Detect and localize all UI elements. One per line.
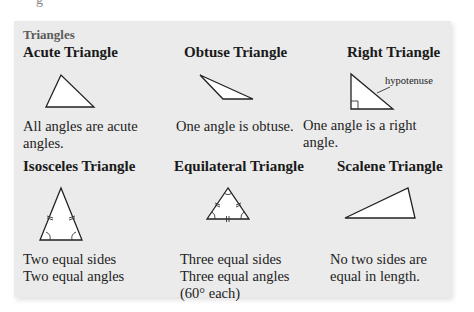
right-triangle-icon: hypotenuse — [350, 74, 450, 114]
isosceles-triangle-icon — [40, 188, 90, 248]
equilateral-triangle-heading: Equilateral Triangle — [174, 158, 324, 175]
scalene-triangle-heading: Scalene Triangle — [337, 158, 467, 175]
scalene-triangle-icon — [345, 188, 425, 228]
acute-triangle-icon — [33, 74, 93, 114]
isosceles-triangle-heading: Isosceles Triangle — [23, 158, 163, 175]
obtuse-triangle-heading: Obtuse Triangle — [184, 44, 324, 61]
panel-title: Triangles — [23, 27, 75, 43]
right-triangle-cell: Right Triangle hypotenuse One angle is a… — [333, 44, 463, 144]
isosceles-triangle-cell: Isosceles Triangle Two equal sides Two e… — [23, 158, 163, 288]
equilateral-triangle-cell: Equilateral Triangle Three equal sides T… — [174, 158, 324, 298]
equilateral-triangle-description: Three equal sides Three equal angles (60… — [180, 251, 330, 302]
obtuse-triangle-icon — [199, 74, 259, 114]
equilateral-triangle-icon — [207, 188, 257, 228]
isosceles-triangle-description: Two equal sides Two equal angles — [23, 251, 173, 285]
right-triangle-description: One angle is a right angle. — [303, 117, 463, 151]
scalene-triangle-description: No two sides are equal in length. — [330, 251, 474, 285]
acute-triangle-description: All angles are acute angles. — [23, 118, 173, 152]
hypotenuse-label: hypotenuse — [385, 75, 433, 86]
acute-triangle-cell: Acute Triangle All angles are acute angl… — [23, 44, 163, 144]
right-triangle-heading: Right Triangle — [347, 44, 463, 61]
acute-triangle-heading: Acute Triangle — [23, 44, 163, 61]
cropped-text-fragment: g — [36, 0, 43, 8]
scalene-triangle-cell: Scalene Triangle No two sides are equal … — [337, 158, 467, 288]
